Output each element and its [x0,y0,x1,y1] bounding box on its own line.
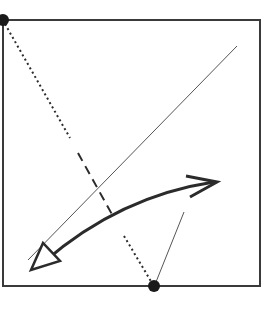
diagram-svg [0,0,261,310]
bottom-point [148,280,160,292]
thin-short-line [156,212,184,282]
dashed-line-middle [78,153,114,218]
top-left-point [0,14,9,26]
dotted-line-upper [5,24,70,138]
diagram-canvas [0,0,261,310]
hollow-triangle-arrowhead-icon [31,243,60,270]
dotted-line-lower [124,236,152,283]
curved-double-arrow [44,182,214,262]
thin-diagonal-line [28,46,237,260]
